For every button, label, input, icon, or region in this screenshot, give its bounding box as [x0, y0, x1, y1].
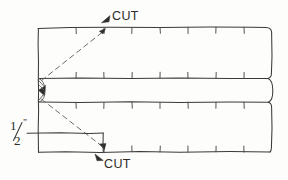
band-bottom-line [39, 102, 268, 103]
center-band [39, 78, 268, 103]
dimension-inch-mark: ” [23, 117, 27, 127]
lower-cut-line [42, 99, 107, 149]
board-top-edge [38, 27, 272, 32]
cut-label-top-arrow-icon [102, 16, 111, 23]
upper-cut-dashed-path [42, 31, 105, 81]
cut-origin-arrowhead [39, 85, 46, 95]
sketch-canvas: CUT CUT 1 2 ” [0, 0, 288, 180]
tick-marks-band-top [76, 72, 244, 78]
board-bottom-edge [39, 151, 271, 152]
leader-horizontal-line [27, 133, 103, 134]
cut-label-bottom-arrow-icon [95, 154, 103, 161]
lower-cut-dashed-path [42, 99, 104, 147]
board-right-edge-upper [268, 32, 272, 78]
dimension-denominator: 2 [14, 133, 21, 148]
dimension-numerator: 1 [10, 118, 17, 133]
cut-label-top: CUT [112, 9, 139, 23]
half-inch-dimension-label: 1 2 ” [10, 117, 27, 148]
board-right-edge-lower [268, 102, 272, 152]
cut-label-bottom: CUT [104, 157, 131, 171]
upper-cut-line [42, 29, 106, 81]
band-top-line [39, 78, 268, 79]
cut-diagram-figure: CUT CUT 1 2 ” Hand-drawn cut diagram 1/2… [0, 0, 288, 180]
cut-label-top-group: CUT [102, 9, 139, 23]
board-right-edge-band [268, 78, 273, 102]
board-outline [38, 27, 273, 153]
tick-marks-band-bottom [76, 102, 244, 108]
cut-label-bottom-group: CUT [95, 154, 131, 171]
